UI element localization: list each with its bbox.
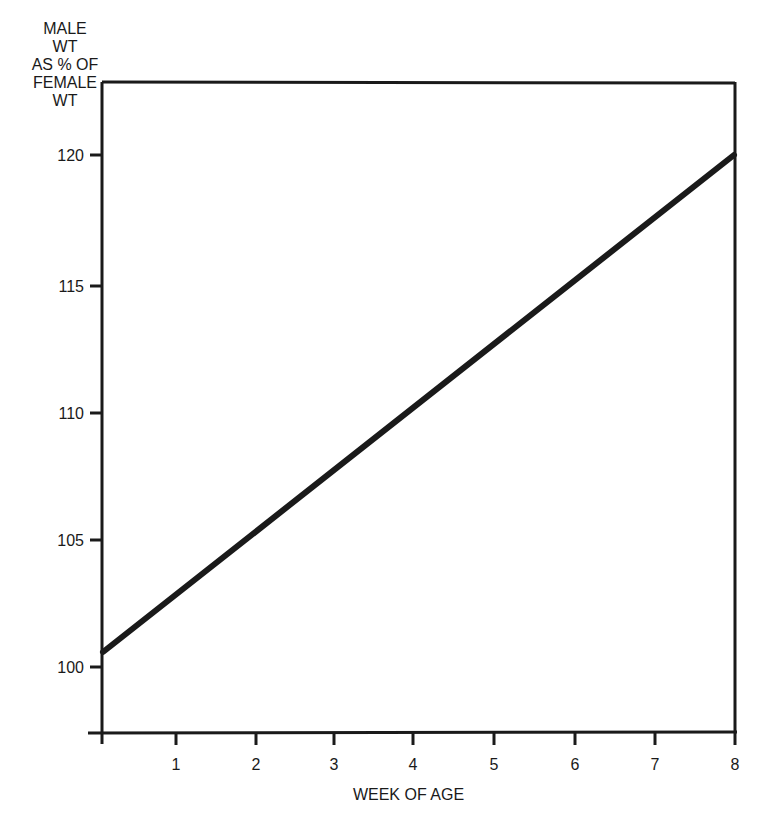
y-axis-tick-labels: 100 105 110 115 120 (57, 147, 84, 676)
x-tick-label: 6 (571, 756, 580, 773)
x-tick-label: 8 (731, 756, 740, 773)
x-tick-label: 7 (651, 756, 660, 773)
x-tick-label: 4 (409, 756, 418, 773)
y-tick-label: 115 (58, 278, 84, 295)
x-axis-title: WEEK OF AGE (0, 786, 757, 804)
x-tick-label: 3 (330, 756, 339, 773)
plot-frame (88, 82, 737, 744)
y-tick-label: 100 (57, 659, 84, 676)
y-tick-label: 110 (58, 405, 84, 422)
chart-canvas: 100 105 110 115 120 1 2 3 4 5 6 7 8 (0, 0, 757, 829)
x-tick-label: 5 (490, 756, 499, 773)
x-axis-tick-labels: 1 2 3 4 5 6 7 8 (172, 756, 740, 773)
x-tick-label: 1 (172, 756, 181, 773)
x-tick-label: 2 (252, 756, 261, 773)
x-axis-ticks (176, 733, 735, 745)
data-series-line (103, 155, 734, 652)
y-tick-label: 120 (57, 147, 84, 164)
y-axis-ticks (90, 155, 102, 667)
y-tick-label: 105 (57, 532, 84, 549)
